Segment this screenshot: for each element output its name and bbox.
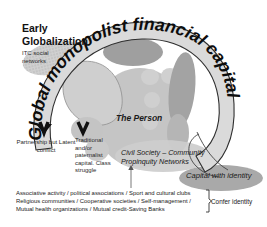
globalization-diagram: Global monopolist financial capital Earl… (0, 0, 267, 227)
bottom-list: Associative activity / political associa… (16, 190, 191, 213)
label-partnership-latent-conflict: Partnership but Latent conflict (16, 139, 76, 154)
bottom-list-line: Religious communities / Cooperative soci… (16, 198, 191, 206)
page-title: Early Globalization (22, 22, 112, 47)
toe-blob-2 (141, 69, 159, 85)
label-itc-social-networks: ITC social networks (22, 50, 70, 65)
toe-blob-4 (144, 92, 160, 108)
label-civil-society: Civil Society – Community Propinquity Ne… (121, 148, 211, 166)
label-confer-identity: Confer identity (211, 198, 252, 205)
bottom-list-line: Mutual health organizations / Mutual cre… (16, 206, 191, 214)
label-the-person: The Person (116, 113, 162, 123)
label-capital-with-identity: Capital with identity (186, 171, 251, 180)
bottom-list-line: Associative activity / political associa… (16, 190, 191, 198)
label-traditional-paternalist-capital: Traditional and/or paternalist capital. … (75, 137, 111, 175)
